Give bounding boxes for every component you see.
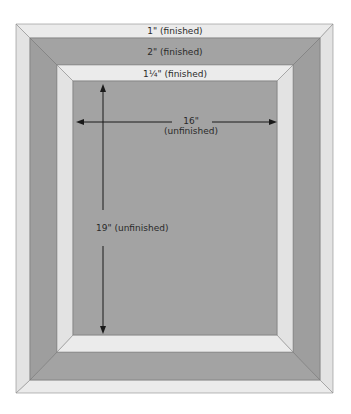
- quilt-diagram: 1" (finished) 2" (finished) 1¼" (finishe…: [0, 0, 351, 414]
- width-label-note: (unfinished): [164, 126, 218, 136]
- width-label-value: 16": [183, 116, 199, 126]
- inner-border-label: 1¼" (finished): [143, 69, 207, 79]
- height-label: 19" (unfinished): [96, 223, 168, 233]
- outer-border-label: 1" (finished): [147, 26, 202, 36]
- middle-border-label: 2" (finished): [147, 47, 202, 57]
- center-panel: [73, 81, 277, 335]
